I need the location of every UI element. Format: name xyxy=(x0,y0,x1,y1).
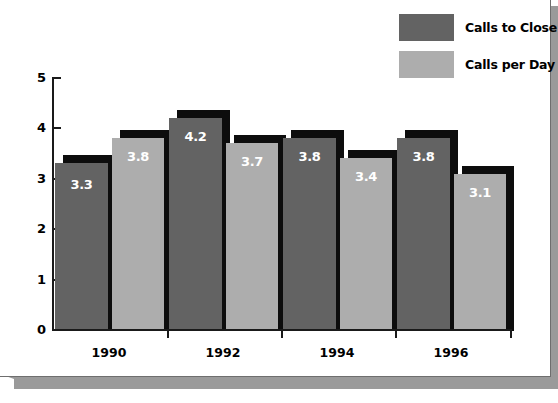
bar-group-1996-calls-per-day[interactable]: 3.1 xyxy=(454,174,506,331)
x-tick-mark-3 xyxy=(395,331,397,338)
bar-value-label: 4.2 xyxy=(169,129,222,144)
x-tick-mark-2 xyxy=(281,331,283,338)
y-tick-label-1: 1 xyxy=(24,272,46,287)
x-tick-mark-1 xyxy=(167,331,169,338)
x-tick-label-1990: 1990 xyxy=(74,345,144,360)
chart-panel: Calls to Close Calls per Day 5 4 3 2 1 xyxy=(0,0,551,377)
bar-group-1990-calls-per-day[interactable]: 3.8 xyxy=(112,138,164,331)
bar-value-label: 3.4 xyxy=(340,169,392,184)
bar-value-label: 3.8 xyxy=(112,149,164,164)
plot-area: 5 4 3 2 1 0 3.3 3.8 xyxy=(0,0,551,377)
bar-value-label: 3.7 xyxy=(226,154,278,169)
bar-value-label: 3.8 xyxy=(397,149,450,164)
y-tick-label-3: 3 xyxy=(24,171,46,186)
y-tick-label-0: 0 xyxy=(24,322,46,337)
bar-fill xyxy=(112,138,164,331)
bar-group-1992-calls-per-day[interactable]: 3.7 xyxy=(226,143,278,331)
y-tick-mark-5 xyxy=(52,77,61,79)
panel-drop-shadow-bottom xyxy=(6,377,558,389)
y-tick-label-5: 5 xyxy=(24,70,46,85)
y-axis-line xyxy=(52,77,54,331)
x-tick-label-1996: 1996 xyxy=(416,345,486,360)
bar-group-1990-calls-to-close[interactable]: 3.3 xyxy=(55,163,108,331)
bar-group-1996-calls-to-close[interactable]: 3.8 xyxy=(397,138,450,331)
bar-value-label: 3.8 xyxy=(283,149,336,164)
bar-fill xyxy=(283,138,336,331)
y-tick-mark-4 xyxy=(52,127,61,129)
bar-fill xyxy=(397,138,450,331)
bar-fill xyxy=(169,118,222,331)
bar-value-label: 3.1 xyxy=(454,185,506,200)
x-tick-label-1992: 1992 xyxy=(188,345,258,360)
chart-page: Calls to Close Calls per Day 5 4 3 2 1 xyxy=(0,0,558,403)
bar-group-1994-calls-to-close[interactable]: 3.8 xyxy=(283,138,336,331)
bar-fill xyxy=(226,143,278,331)
y-tick-label-2: 2 xyxy=(24,221,46,236)
y-tick-label-4: 4 xyxy=(24,120,46,135)
bar-value-label: 3.3 xyxy=(55,177,108,192)
bar-group-1994-calls-per-day[interactable]: 3.4 xyxy=(340,158,392,331)
bar-group-1992-calls-to-close[interactable]: 4.2 xyxy=(169,118,222,331)
x-tick-mark-4 xyxy=(510,331,512,338)
x-tick-label-1994: 1994 xyxy=(302,345,372,360)
